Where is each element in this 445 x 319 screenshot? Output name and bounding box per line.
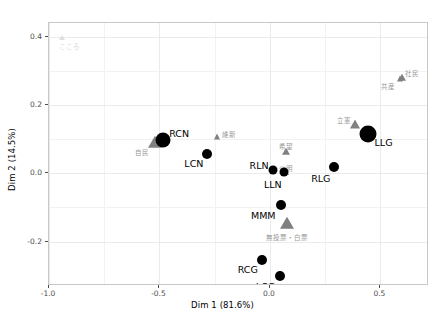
x-tick-mark [269,285,270,288]
x-axis-title: Dim 1 (81.6%) [0,300,445,310]
y-tick-mark [45,104,48,105]
variable-marker [214,133,220,139]
x-tick-label: -0.5 [151,289,166,298]
individual-point-label: LCN [184,159,203,169]
x-tick-mark [48,285,49,288]
individual-point-label: LLN [264,181,282,191]
individual-point-label: RLG [311,174,330,184]
individual-marker [359,126,376,143]
y-axis-title: Dim 2 (14.5%) [6,0,18,319]
variable-point-label: 無投票・白票 [266,235,308,242]
y-tick-label: 0.2 [0,99,42,108]
individual-point-label: RLN [250,161,269,171]
individual-marker [257,255,267,265]
x-tick-label: 0.0 [263,289,275,298]
x-tick-mark [158,285,159,288]
x-tick-label: -1.0 [41,289,56,298]
y-tick-label: 0.4 [0,31,42,40]
x-tick-mark [379,285,380,288]
variable-marker [280,217,294,229]
individual-point-label: RCG [238,265,258,275]
gridline-horizontal [49,105,427,106]
individual-marker [275,271,285,281]
plot-panel: こころ自民維新希望公明立憲社民共産無投票・白票RCNLCNRLNLLNRLGLL… [48,22,428,285]
variable-marker [397,75,403,81]
individual-marker [202,149,212,159]
variable-point-label: 共産 [381,84,395,91]
individual-marker [268,166,277,175]
gridline-vertical [49,23,50,284]
gridline-vertical [270,23,271,284]
individual-marker [279,168,288,177]
gridline-horizontal [49,71,427,72]
individual-point-label: LLG [375,139,393,149]
gridline-horizontal [49,37,427,38]
gridline-vertical [325,23,326,284]
variable-marker [350,120,360,129]
y-tick-label: 0.0 [0,168,42,177]
gridline-horizontal [49,242,427,243]
individual-marker [276,200,286,210]
y-tick-mark [45,172,48,173]
gridline-vertical [159,23,160,284]
gridline-vertical [104,23,105,284]
x-tick-label: 0.5 [373,289,385,298]
variable-point-label: 希望 [279,144,293,151]
y-tick-mark [45,36,48,37]
variable-point-label: こころ [59,43,80,50]
variable-point-label: 維新 [222,131,236,138]
gridline-vertical [380,23,381,284]
individual-marker [329,162,339,172]
individual-point-label: MMM [251,211,276,221]
gridline-horizontal [49,173,427,174]
variable-marker [59,35,65,40]
mca-biplot: こころ自民維新希望公明立憲社民共産無投票・白票RCNLCNRLNLLNRLGLL… [0,0,445,319]
variable-point-label: 社民 [405,71,419,78]
variable-point-label: 自民 [135,150,149,157]
variable-point-label: 立憲 [337,118,351,125]
individual-point-label: RCN [169,130,189,140]
individual-point-label: LCG [256,283,275,285]
y-tick-mark [45,241,48,242]
gridline-vertical [215,23,216,284]
gridline-horizontal [49,207,427,208]
y-tick-label: -0.2 [0,236,42,245]
